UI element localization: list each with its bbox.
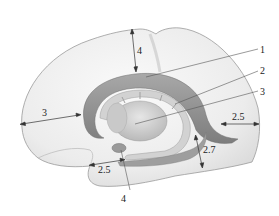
measurement-left-label: 3 <box>42 107 47 118</box>
callout-3-label: 3 <box>260 86 265 97</box>
measurement-bottom-label: 2.5 <box>98 164 111 175</box>
brain-diagram: 1 2 3 4 4 3 2.5 2.7 2.5 <box>0 0 279 216</box>
measurement-right-lower-label: 2.7 <box>203 144 216 155</box>
callout-2-label: 2 <box>260 65 265 76</box>
callout-4-label: 4 <box>121 193 126 204</box>
measurement-top-label: 4 <box>137 45 142 56</box>
measurement-right-label: 2.5 <box>232 111 245 122</box>
callout-1-label: 1 <box>260 44 265 55</box>
